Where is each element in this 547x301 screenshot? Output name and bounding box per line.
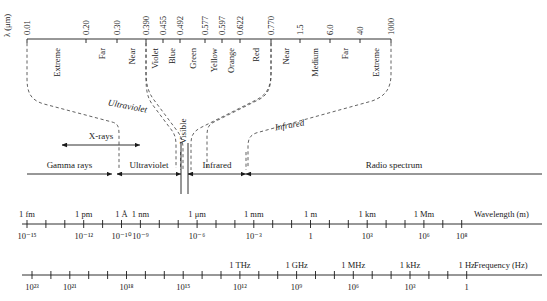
top-axis-tick-value: 1000 bbox=[386, 18, 396, 35]
top-axis-band-label: Green bbox=[188, 47, 198, 69]
wavelength-power-label: 10⁸ bbox=[456, 231, 468, 241]
frequency-axis: 1 THz1 GHz1 MHz1 kHz1 Hz10²³10²¹10¹⁸10¹⁵… bbox=[22, 260, 542, 292]
wavelength-power-label: 10³ bbox=[362, 231, 374, 241]
top-axis-band-label: Far bbox=[97, 48, 107, 60]
wavelength-power-label: 1 bbox=[308, 231, 312, 241]
top-axis-band-label: Extreme bbox=[371, 48, 381, 77]
frequency-unit-label: 1 Hz bbox=[459, 260, 476, 270]
frequency-power-label: 10²¹ bbox=[63, 282, 77, 292]
top-axis-tick-value: 6.0 bbox=[325, 24, 335, 35]
xray-arrow-group: X-rays bbox=[62, 131, 140, 145]
frequency-power-label: 1 bbox=[465, 282, 469, 292]
wavelength-unit-label: 1 nm bbox=[132, 209, 150, 219]
spectrum-svg: λ (μm)0.010.200.300.3900.4550.4920.5770.… bbox=[0, 0, 547, 301]
xray-label: X-rays bbox=[89, 131, 114, 141]
top-wavelength-axis: λ (μm)0.010.200.300.3900.4550.4920.5770.… bbox=[2, 14, 396, 77]
top-axis-band-label: Orange bbox=[226, 48, 236, 73]
infrared-label: Infrared bbox=[203, 160, 232, 170]
wavelength-unit-label: 1 μm bbox=[188, 209, 206, 219]
wavelength-power-label: 10⁻⁶ bbox=[189, 231, 206, 241]
top-axis-tick-value: 0.455 bbox=[158, 16, 168, 35]
top-axis-tick-value: 0.01 bbox=[22, 20, 32, 35]
wavelength-unit-label: 1 Mm bbox=[414, 209, 435, 219]
top-axis-tick-value: 0.30 bbox=[112, 20, 122, 35]
infrared-slant-label: Infrared bbox=[273, 117, 305, 132]
main-spectrum-band: Gamma raysUltravioletInfraredRadio spect… bbox=[27, 143, 542, 194]
top-axis-tick-value: 40 bbox=[355, 27, 365, 36]
wavelength-unit-label: 1 m bbox=[304, 209, 317, 219]
gamma-rays-label: Gamma rays bbox=[47, 160, 93, 170]
frequency-power-label: 10⁹ bbox=[291, 282, 303, 292]
frequency-power-label: 10⁶ bbox=[348, 282, 360, 292]
top-axis-tick-value: 0.390 bbox=[141, 16, 151, 35]
top-axis-band-label: Extreme bbox=[52, 48, 62, 77]
top-axis-band-label: Far bbox=[340, 48, 350, 60]
top-axis-tick-value: 0.492 bbox=[175, 16, 185, 35]
wavelength-power-label: 10⁻¹² bbox=[74, 231, 93, 241]
wavelength-axis: 1 fm1 pm1 Å1 nm1 μm1 mm1 m1 km1 Mm10⁻¹⁵1… bbox=[17, 209, 542, 241]
top-axis-band-label: Red bbox=[251, 47, 261, 61]
top-axis-band-label: Blue bbox=[167, 48, 177, 64]
top-axis-band-label: Medium bbox=[310, 48, 320, 77]
wavelength-axis-title: Wavelength (m) bbox=[474, 209, 529, 219]
wavelength-unit-label: 1 pm bbox=[75, 209, 93, 219]
visible-slant-label: Visible bbox=[178, 119, 188, 144]
wavelength-power-label: 10⁶ bbox=[418, 231, 430, 241]
top-axis-band-label: Yellow bbox=[209, 47, 219, 72]
frequency-power-label: 10¹⁵ bbox=[176, 282, 190, 292]
spectrum-figure: λ (μm)0.010.200.300.3900.4550.4920.5770.… bbox=[0, 0, 547, 301]
frequency-unit-label: 1 THz bbox=[229, 260, 251, 270]
frequency-power-label: 10²³ bbox=[25, 282, 39, 292]
top-axis-tick-value: 0.770 bbox=[266, 16, 276, 35]
ultraviolet-slant-label: Ultraviolet bbox=[107, 97, 148, 114]
frequency-unit-label: 1 GHz bbox=[285, 260, 308, 270]
wavelength-unit-label: 1 km bbox=[359, 209, 377, 219]
slanted-region-labels: UltravioletInfraredVisible bbox=[107, 97, 305, 144]
frequency-axis-title: Frequency (Hz) bbox=[474, 260, 528, 270]
top-axis-tick-value: 1.5 bbox=[295, 24, 305, 35]
wavelength-power-label: 10⁻¹⁰ bbox=[111, 231, 131, 241]
wavelength-power-label: 10⁻³ bbox=[246, 231, 263, 241]
wavelength-power-label: 10⁻⁹ bbox=[132, 231, 149, 241]
frequency-power-label: 10¹⁸ bbox=[119, 282, 133, 292]
top-axis-title: λ (μm) bbox=[2, 14, 12, 37]
top-axis-band-label: Violet bbox=[150, 47, 160, 68]
connector-line bbox=[27, 43, 119, 168]
wavelength-power-label: 10⁻¹⁵ bbox=[17, 231, 36, 241]
top-axis-band-label: Near bbox=[281, 48, 291, 65]
top-axis-tick-value: 0.597 bbox=[217, 16, 227, 35]
ultraviolet-label: Ultraviolet bbox=[130, 160, 169, 170]
frequency-unit-label: 1 MHz bbox=[341, 260, 365, 270]
frequency-power-label: 10³ bbox=[404, 282, 416, 292]
radio-spectrum-label: Radio spectrum bbox=[366, 160, 423, 170]
wavelength-unit-label: 1 fm bbox=[19, 209, 35, 219]
top-axis-tick-value: 0.577 bbox=[200, 16, 210, 35]
frequency-unit-label: 1 kHz bbox=[400, 260, 421, 270]
top-axis-tick-value: 0.20 bbox=[81, 20, 91, 35]
wavelength-unit-label: 1 mm bbox=[244, 209, 264, 219]
frequency-power-label: 10¹² bbox=[233, 282, 247, 292]
top-axis-tick-value: 0.622 bbox=[235, 16, 245, 35]
wavelength-unit-label: 1 Å bbox=[115, 209, 128, 219]
top-axis-band-label: Near bbox=[127, 48, 137, 65]
